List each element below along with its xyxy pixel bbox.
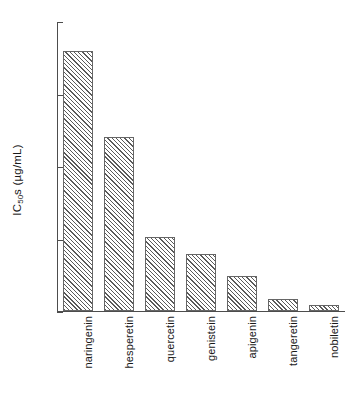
x-axis-tick-label-slot: apigenin bbox=[222, 316, 263, 392]
y-axis-label: IC50s (µg/mL) bbox=[6, 110, 30, 250]
x-axis-tick-label-slot: nobiletin bbox=[304, 316, 345, 392]
plot-area: 05101520 bbox=[57, 22, 345, 312]
bar bbox=[268, 299, 298, 311]
bar bbox=[227, 276, 257, 311]
bar bbox=[186, 254, 216, 311]
y-axis-label-text: IC50s (µg/mL) bbox=[11, 144, 25, 215]
x-axis-tick-label-slot: naringenin bbox=[57, 316, 98, 392]
x-axis-tick-labels: naringeninhesperetinquercetingenisteinap… bbox=[57, 316, 345, 392]
x-axis-tick-label: naringenin bbox=[82, 316, 94, 368]
bar-series bbox=[57, 21, 345, 311]
y-axis-tick-mark bbox=[58, 312, 63, 313]
bar bbox=[145, 237, 175, 311]
chart-figure: IC50s (µg/mL) 05101520 naringeninhespere… bbox=[0, 0, 357, 393]
y-axis-label-suffix: s (µg/mL) bbox=[11, 144, 23, 195]
x-axis-spine bbox=[57, 311, 345, 312]
bar bbox=[309, 305, 339, 311]
y-axis-label-subscript: 50 bbox=[16, 195, 25, 204]
x-axis-tick-label: quercetin bbox=[164, 316, 176, 362]
x-axis-tick-label: genistein bbox=[205, 316, 217, 361]
x-axis-tick-label: hesperetin bbox=[123, 316, 135, 368]
bar bbox=[63, 51, 93, 311]
bar bbox=[104, 137, 134, 311]
x-axis-tick-label-slot: quercetin bbox=[139, 316, 180, 392]
x-axis-tick-label-slot: genistein bbox=[180, 316, 221, 392]
x-axis-tick-label-slot: tangeretin bbox=[263, 316, 304, 392]
x-axis-tick-label: apigenin bbox=[246, 316, 258, 358]
x-axis-tick-label: tangeretin bbox=[287, 316, 299, 366]
x-axis-tick-label-slot: hesperetin bbox=[98, 316, 139, 392]
x-axis-tick-label: nobiletin bbox=[328, 316, 340, 358]
y-axis-label-prefix: IC bbox=[11, 204, 23, 216]
